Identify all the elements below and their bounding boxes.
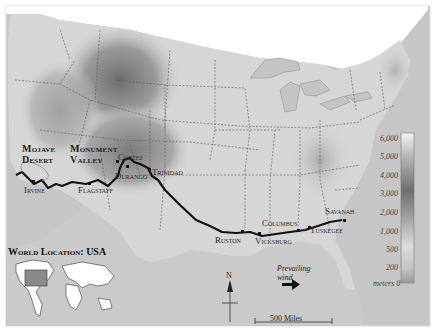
- region-label-mojave-desert: Mojave Desert: [22, 143, 55, 165]
- legend-tick: 4,000: [358, 171, 398, 180]
- elevation-legend-bar: [401, 133, 414, 283]
- wind-label-line-2: wind: [277, 273, 310, 282]
- city-label-cortez: Cortez: [118, 153, 143, 162]
- city-label-columbus: Columbus: [262, 219, 297, 228]
- city-label-savanah: Savanah: [325, 207, 354, 216]
- legend-tick: 500: [358, 245, 398, 254]
- legend-tick: 2,000: [358, 208, 398, 217]
- city-label-trinidad: Trinidad: [152, 168, 183, 177]
- city-label-tuskegee: Tuskegee: [310, 226, 343, 235]
- legend-unit-label: meters: [373, 279, 394, 288]
- city-label-irvine: Irvine: [24, 186, 45, 195]
- region-line-2: Desert: [22, 154, 55, 165]
- city-label-ruston: Ruston: [215, 236, 241, 245]
- legend-tick: 5,000: [358, 152, 398, 161]
- city-label-durango: Durango: [115, 172, 147, 181]
- legend-tick: 3,000: [358, 189, 398, 198]
- north-label: N: [226, 271, 232, 280]
- legend-unit-row: meters 0: [373, 280, 400, 288]
- scale-label: 500 Miles: [270, 314, 302, 323]
- city-label-vicksburg: Vicksburg: [255, 237, 292, 246]
- inset-title: World Location: USA: [8, 246, 106, 257]
- region-line-1: Mojave: [22, 143, 55, 154]
- region-label-monument-valley: Monument Valley: [70, 143, 118, 165]
- wind-label: Prevailing wind: [277, 264, 310, 282]
- legend-tick: 200: [358, 263, 398, 272]
- region-line-1: Monument: [70, 143, 118, 154]
- legend-tick: 0: [396, 279, 400, 288]
- usa-highlight: [25, 270, 47, 286]
- city-label-flagstaff: Flagstaff: [78, 186, 113, 195]
- wind-label-line-1: Prevailing: [277, 264, 310, 273]
- region-line-2: Valley: [70, 154, 118, 165]
- legend-tick: 6,000: [358, 134, 398, 143]
- legend-tick: 1,000: [358, 227, 398, 236]
